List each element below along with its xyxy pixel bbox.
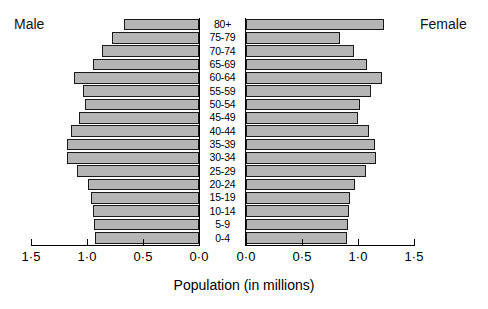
axis-tick-label-0·0: 0·0 <box>226 249 266 264</box>
female-zero-baseline <box>245 18 246 246</box>
axis-tick-label-1·5: 1·5 <box>11 249 51 264</box>
male-bars-pane <box>31 18 199 245</box>
pyramid-row <box>31 85 199 98</box>
pyramid-row <box>246 165 414 178</box>
age-band-label-60-64: 60-64 <box>199 71 246 84</box>
age-band-label-70-74: 70-74 <box>199 45 246 58</box>
axis-tick-0·5 <box>302 239 303 246</box>
male-bar-80+ <box>124 19 199 31</box>
female-bar-5-9 <box>246 219 348 231</box>
pyramid-row <box>31 125 199 138</box>
male-bar-55-59 <box>83 85 199 97</box>
age-band-label-40-44: 40-44 <box>199 125 246 138</box>
pyramid-row <box>31 18 199 31</box>
pyramid-row <box>31 165 199 178</box>
female-bar-15-19 <box>246 192 350 204</box>
axis-tick-label-1·0: 1·0 <box>338 249 378 264</box>
pyramid-row <box>246 58 414 71</box>
female-bar-60-64 <box>246 72 382 84</box>
female-bars-pane <box>246 18 414 245</box>
male-bar-10-14 <box>93 205 199 217</box>
age-band-label-65-69: 65-69 <box>199 58 246 71</box>
female-bar-0-4 <box>246 232 347 244</box>
male-bar-45-49 <box>79 112 199 124</box>
pyramid-row <box>31 151 199 164</box>
female-bar-80+ <box>246 19 384 31</box>
female-bar-20-24 <box>246 179 355 191</box>
pyramid-row <box>31 138 199 151</box>
female-side-caption: Female <box>420 16 467 32</box>
pyramid-row <box>246 232 414 245</box>
male-bar-65-69 <box>93 59 199 71</box>
male-bar-35-39 <box>67 139 199 151</box>
pyramid-row <box>246 31 414 44</box>
axis-tick-label-0·5: 0·5 <box>123 249 163 264</box>
pyramid-row <box>246 18 414 31</box>
male-x-axis-line <box>31 245 200 246</box>
axis-tick-0·0 <box>199 239 200 246</box>
pyramid-row <box>31 98 199 111</box>
female-bar-70-74 <box>246 45 354 57</box>
age-band-label-5-9: 5-9 <box>199 218 246 231</box>
age-band-label-15-19: 15-19 <box>199 191 246 204</box>
pyramid-row <box>246 45 414 58</box>
pyramid-row <box>246 98 414 111</box>
male-bar-5-9 <box>94 219 199 231</box>
female-bar-10-14 <box>246 205 349 217</box>
pyramid-row <box>246 85 414 98</box>
female-bar-25-29 <box>246 165 366 177</box>
axis-tick-label-1·5: 1·5 <box>394 249 434 264</box>
pyramid-row <box>31 45 199 58</box>
male-zero-baseline <box>199 18 200 246</box>
pyramid-row <box>31 31 199 44</box>
axis-tick-0·0 <box>246 239 247 246</box>
pyramid-row <box>246 71 414 84</box>
age-band-labels: 80+75-7970-7465-6960-6455-5950-5445-4940… <box>199 18 246 245</box>
age-band-label-20-24: 20-24 <box>199 178 246 191</box>
age-band-label-0-4: 0-4 <box>199 232 246 245</box>
male-bar-30-34 <box>67 152 199 164</box>
male-bar-60-64 <box>74 72 199 84</box>
age-band-label-50-54: 50-54 <box>199 98 246 111</box>
pyramid-row <box>246 218 414 231</box>
age-band-label-10-14: 10-14 <box>199 205 246 218</box>
axis-tick-1·0 <box>87 239 88 246</box>
male-bar-70-74 <box>102 45 199 57</box>
pyramid-row <box>31 232 199 245</box>
pyramid-row <box>31 218 199 231</box>
pyramid-row <box>31 58 199 71</box>
pyramid-row <box>31 111 199 124</box>
age-band-label-30-34: 30-34 <box>199 151 246 164</box>
female-bar-35-39 <box>246 139 375 151</box>
axis-tick-label-1·0: 1·0 <box>67 249 107 264</box>
male-bar-25-29 <box>77 165 199 177</box>
population-pyramid-chart: Male Female 80+75-7970-7465-6960-6455-59… <box>0 0 488 309</box>
pyramid-row <box>31 178 199 191</box>
male-bar-40-44 <box>71 125 199 137</box>
age-band-label-25-29: 25-29 <box>199 165 246 178</box>
pyramid-row <box>31 205 199 218</box>
female-bar-65-69 <box>246 59 367 71</box>
female-bar-50-54 <box>246 99 360 111</box>
axis-tick-1·0 <box>358 239 359 246</box>
male-bar-20-24 <box>88 179 199 191</box>
pyramid-row <box>31 191 199 204</box>
female-bar-75-79 <box>246 32 340 44</box>
age-band-label-75-79: 75-79 <box>199 31 246 44</box>
female-bar-30-34 <box>246 152 376 164</box>
axis-tick-label-0·0: 0·0 <box>179 249 219 264</box>
female-bar-55-59 <box>246 85 371 97</box>
x-axis-title: Population (in millions) <box>0 277 488 293</box>
female-bar-45-49 <box>246 112 358 124</box>
axis-tick-1·5 <box>31 239 32 246</box>
pyramid-row <box>246 178 414 191</box>
axis-tick-0·5 <box>143 239 144 246</box>
pyramid-row <box>246 125 414 138</box>
pyramid-row <box>246 151 414 164</box>
age-band-label-55-59: 55-59 <box>199 85 246 98</box>
male-bar-0-4 <box>95 232 199 244</box>
age-band-label-45-49: 45-49 <box>199 111 246 124</box>
pyramid-row <box>31 71 199 84</box>
age-band-label-80+: 80+ <box>199 18 246 31</box>
female-x-axis-line <box>246 245 415 246</box>
